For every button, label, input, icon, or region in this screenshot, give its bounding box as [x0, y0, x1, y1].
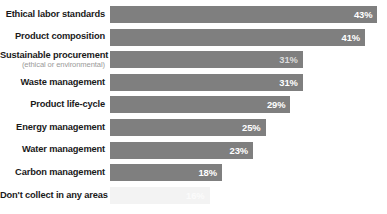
category-label-main: Product composition	[0, 32, 105, 41]
bar-value-label: 23%	[230, 145, 253, 156]
chart-row: Product composition41%	[0, 29, 387, 46]
category-label: Waste management	[0, 78, 110, 87]
bar-track: 41%	[110, 29, 387, 46]
category-label-main: Water management	[0, 145, 105, 154]
bar-value-label: 16%	[186, 190, 209, 201]
bar-track: 31%	[110, 74, 387, 91]
chart-row: Water management23%	[0, 142, 387, 159]
bar-value-label: 31%	[279, 54, 302, 65]
category-label-sub: (ethical or environmental)	[0, 61, 105, 69]
chart-row: Don't collect in any areas16%	[0, 187, 387, 204]
chart-row: Energy management25%	[0, 119, 387, 136]
category-label-main: Ethical labor standards	[0, 10, 105, 19]
bar-value-label: 43%	[354, 9, 377, 20]
bar: 43%	[110, 6, 377, 23]
bar-track: 25%	[110, 119, 387, 136]
category-label: Water management	[0, 145, 110, 154]
bar: 23%	[110, 142, 253, 159]
bar-track: 18%	[110, 164, 387, 181]
chart-row: Sustainable procurement(ethical or envir…	[0, 51, 387, 68]
bar-track: 16%	[110, 187, 387, 204]
bar: 31%	[110, 74, 303, 91]
bar-track: 23%	[110, 142, 387, 159]
bar-value-label: 18%	[198, 167, 221, 178]
bar: 31%	[110, 51, 303, 68]
bar-value-label: 41%	[342, 32, 365, 43]
bar: 41%	[110, 29, 365, 46]
bar: 25%	[110, 119, 266, 136]
category-label-main: Carbon management	[0, 168, 105, 177]
horizontal-bar-chart: Ethical labor standards43%Product compos…	[0, 0, 387, 214]
category-label: Product life-cycle	[0, 100, 110, 109]
bar-value-label: 31%	[279, 77, 302, 88]
bar-track: 31%	[110, 51, 387, 68]
bar-value-label: 25%	[242, 122, 265, 133]
bar: 29%	[110, 96, 290, 113]
category-label: Ethical labor standards	[0, 10, 110, 19]
chart-row: Ethical labor standards43%	[0, 6, 387, 23]
bar: 18%	[110, 164, 222, 181]
category-label: Don't collect in any areas	[0, 191, 110, 200]
category-label-main: Product life-cycle	[0, 100, 105, 109]
bar-track: 29%	[110, 96, 387, 113]
bar-value-label: 29%	[267, 99, 290, 110]
bar-track: 43%	[110, 6, 387, 23]
chart-row: Product life-cycle29%	[0, 96, 387, 113]
bar: 16%	[110, 187, 210, 204]
category-label: Carbon management	[0, 168, 110, 177]
category-label: Product composition	[0, 32, 110, 41]
chart-row: Carbon management18%	[0, 164, 387, 181]
category-label: Sustainable procurement(ethical or envir…	[0, 51, 110, 68]
category-label: Energy management	[0, 123, 110, 132]
chart-row: Waste management31%	[0, 74, 387, 91]
category-label-main: Energy management	[0, 123, 105, 132]
category-label-main: Don't collect in any areas	[0, 191, 105, 200]
category-label-main: Waste management	[0, 78, 105, 87]
